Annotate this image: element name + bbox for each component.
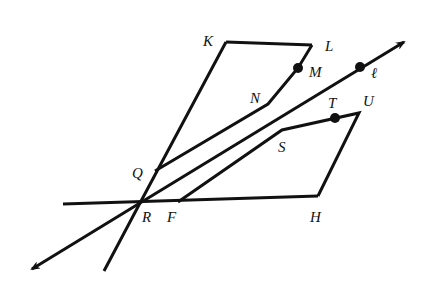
label-ell: ℓ: [371, 65, 377, 81]
label-q: Q: [132, 165, 143, 181]
label-s: S: [278, 139, 286, 155]
label-r: R: [141, 209, 151, 225]
label-u: U: [363, 93, 375, 109]
label-h: H: [309, 209, 322, 225]
label-k: K: [202, 33, 214, 49]
geometry-diagram: K L M N ℓ T U S Q R F H: [0, 0, 431, 291]
segment-k-q-r-down: [104, 42, 226, 271]
label-f: F: [166, 209, 177, 225]
point-ell: [355, 62, 365, 72]
diagram-canvas: K L M N ℓ T U S Q R F H: [0, 0, 431, 291]
point-t: [330, 113, 340, 123]
label-t: T: [328, 95, 338, 111]
path-l-m-n-q: [155, 45, 312, 171]
segment-kl: [226, 42, 312, 45]
label-l: L: [324, 38, 333, 54]
point-m: [293, 63, 303, 73]
label-m: M: [308, 64, 323, 80]
label-n: N: [249, 90, 261, 106]
line-rh: [63, 196, 318, 204]
